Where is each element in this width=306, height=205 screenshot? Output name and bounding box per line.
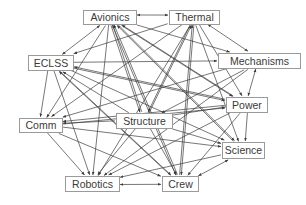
node-eclss[interactable]: ECLSS [29,56,74,71]
node-label-eclss: ECLSS [34,57,68,69]
node-mechanisms[interactable]: Mechanisms [219,54,301,69]
edge-comm-to-science [63,127,221,147]
node-label-comm: Comm [26,119,57,131]
node-comm[interactable]: Comm [20,119,63,133]
node-avionics[interactable]: Avionics [84,11,137,25]
edge-avionics-to-structure [111,25,140,112]
node-label-robotics: Robotics [72,178,113,190]
node-label-mechanisms: Mechanisms [230,55,289,67]
edge-crew-to-thermal [180,25,193,175]
edge-thermal-to-structure [148,25,190,112]
edge-thermal-to-robotics [98,26,190,176]
node-structure[interactable]: Structure [117,114,173,129]
edge-eclss-to-science [70,70,224,140]
edge-structure-to-thermal [149,25,191,112]
subsystem-network-diagram: Avionics Thermal ECLSS Mechanisms Power … [0,0,306,205]
node-robotics[interactable]: Robotics [66,177,120,192]
edge-avionics-to-robotics [93,25,109,175]
edge-science-to-crew [198,160,228,176]
edge-comm-to-crew [59,133,161,176]
node-label-avionics: Avionics [91,11,130,23]
edge-eclss-to-comm [40,71,47,117]
node-label-power: Power [232,99,262,111]
edge-comm-to-robotics [48,133,85,175]
edge-power-to-eclss [74,67,225,99]
node-power[interactable]: Power [227,98,268,113]
node-label-science: Science [225,144,263,156]
node-label-thermal: Thermal [175,11,214,23]
edge-eclss-to-mechanisms [74,61,217,62]
edge-structure-to-avionics [113,25,142,112]
edge-avionics-to-eclss [62,25,100,54]
edges-layer [40,15,255,184]
node-thermal[interactable]: Thermal [170,11,220,25]
node-label-crew: Crew [168,178,193,190]
edge-power-to-science [245,113,247,141]
node-crew[interactable]: Crew [163,177,199,192]
edge-mechanisms-to-power [248,69,256,96]
node-label-structure: Structure [123,115,166,127]
edge-eclss-to-power [74,68,225,100]
node-science[interactable]: Science [223,143,265,159]
